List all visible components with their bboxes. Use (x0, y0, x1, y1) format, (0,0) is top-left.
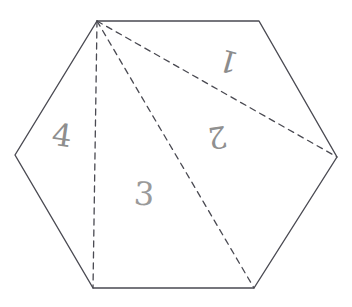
region-label-3: 3 (133, 177, 156, 210)
region-label-2: 2 (206, 121, 229, 153)
hexagon-diagram (0, 0, 352, 307)
figure-canvas: 1 2 3 4 (0, 0, 352, 307)
dashed-diagonal-to-bottom-left-vertex (93, 21, 97, 288)
